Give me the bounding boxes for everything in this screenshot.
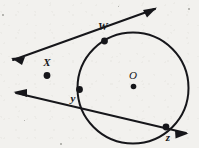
- geometry-diagram-canvas: W X y z O: [0, 0, 199, 148]
- geometry-figure: W X y z O: [0, 0, 199, 148]
- point-y-dot: [76, 86, 83, 93]
- arrow-upper-right-icon: [143, 8, 157, 18]
- paper-speck: [2, 14, 4, 16]
- point-x-dot: [44, 72, 51, 79]
- center-point-dot: [131, 84, 137, 90]
- point-z-dot: [163, 124, 170, 131]
- arrow-upper-left-icon: [11, 57, 25, 65]
- label-w: W: [98, 20, 109, 32]
- label-x: X: [42, 56, 51, 68]
- paper-speck: [118, 6, 119, 7]
- label-y: y: [69, 92, 76, 104]
- label-o: O: [129, 69, 137, 81]
- paper-speck: [24, 120, 25, 121]
- point-w-dot: [101, 38, 108, 45]
- paper-speck: [60, 143, 62, 145]
- label-z: z: [165, 131, 171, 143]
- tangent-line-through-x-and-w: [13, 9, 155, 60]
- secant-line-through-x-y-z: [16, 93, 186, 133]
- paper-speck: [188, 8, 190, 10]
